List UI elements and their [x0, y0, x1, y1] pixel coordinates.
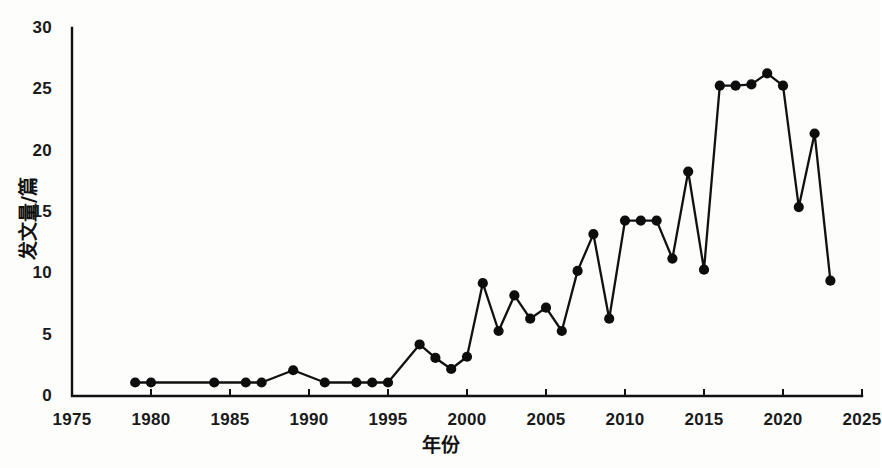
axes-group: [72, 28, 862, 396]
data-point-2018: [746, 79, 756, 89]
axis-spines: [72, 28, 862, 396]
data-point-1997: [415, 339, 425, 349]
data-point-2004: [525, 314, 535, 324]
data-point-2023: [825, 276, 835, 286]
data-point-markers: [130, 68, 835, 387]
series-line-publication-count: [135, 73, 830, 382]
data-point-2009: [604, 314, 614, 324]
data-point-2021: [794, 202, 804, 212]
data-point-1989: [288, 365, 298, 375]
data-point-2011: [636, 215, 646, 225]
data-point-2005: [541, 303, 551, 313]
data-point-1991: [320, 377, 330, 387]
data-point-2007: [573, 266, 583, 276]
data-point-1986: [241, 377, 251, 387]
data-point-2012: [652, 215, 662, 225]
data-point-2019: [762, 68, 772, 78]
data-point-2015: [699, 265, 709, 275]
data-point-2017: [731, 81, 741, 91]
data-point-2003: [509, 290, 519, 300]
data-point-2002: [494, 326, 504, 336]
data-point-1995: [383, 377, 393, 387]
data-point-1999: [446, 364, 456, 374]
data-point-2013: [667, 254, 677, 264]
data-point-2008: [588, 229, 598, 239]
data-point-2022: [810, 128, 820, 138]
data-point-1979: [130, 377, 140, 387]
data-point-1984: [209, 377, 219, 387]
data-point-1998: [430, 353, 440, 363]
data-point-2006: [557, 326, 567, 336]
data-point-1994: [367, 377, 377, 387]
data-point-2016: [715, 81, 725, 91]
data-point-2001: [478, 278, 488, 288]
data-point-2010: [620, 215, 630, 225]
data-point-1993: [351, 377, 361, 387]
data-point-2020: [778, 81, 788, 91]
data-point-2014: [683, 166, 693, 176]
data-point-1980: [146, 377, 156, 387]
data-point-1987: [257, 377, 267, 387]
data-point-2000: [462, 352, 472, 362]
